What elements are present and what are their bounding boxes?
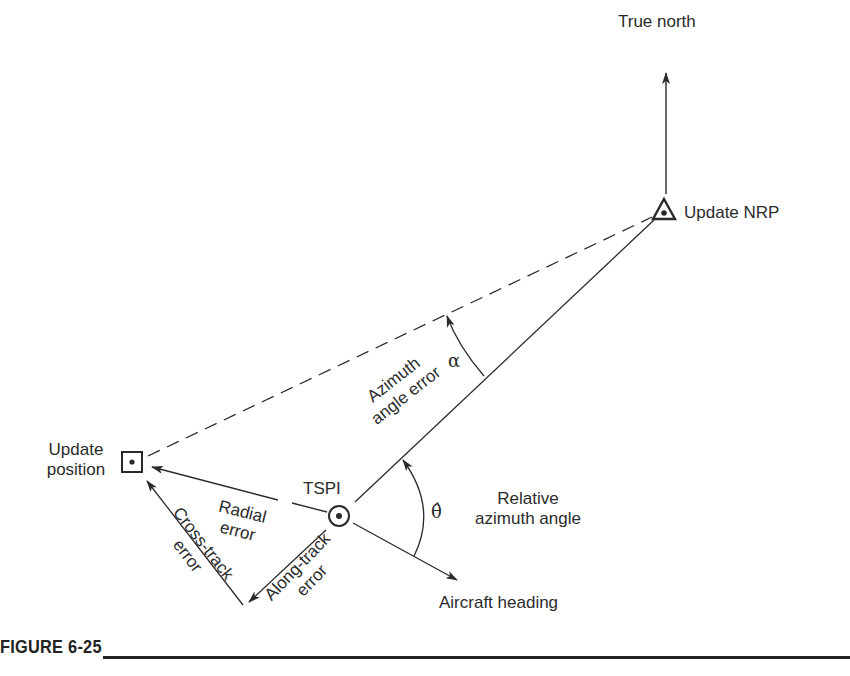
alpha-symbol: α (448, 350, 460, 371)
aircraft-heading-arrow (353, 523, 457, 580)
dashed-line-position-to-nrp (148, 217, 652, 456)
figure-caption: FIGURE 6-25 (0, 636, 102, 658)
update-position-line2: position (40, 460, 112, 480)
update-position-square-icon (122, 452, 142, 472)
relative-azimuth-angle-label: Relative azimuth angle (463, 489, 593, 529)
aircraft-heading-label: Aircraft heading (439, 593, 558, 613)
theta-hat-symbol: θ̂ (431, 501, 442, 522)
relative-azimuth-line2: azimuth angle (463, 509, 593, 529)
update-nrp-label: Update NRP (684, 203, 779, 223)
relative-azimuth-line1: Relative (463, 489, 593, 509)
true-north-label: True north (618, 12, 696, 32)
tspi-label: TSPI (303, 479, 341, 499)
radial-error-line-inner (292, 503, 327, 512)
theta-arc (403, 460, 424, 556)
update-nrp-triangle-icon (653, 199, 675, 219)
update-position-label: Update position (40, 440, 112, 480)
caption-rule (103, 656, 850, 659)
update-position-line1: Update (40, 440, 112, 460)
